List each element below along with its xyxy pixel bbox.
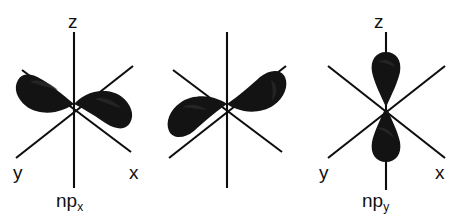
orbital-lobe-upper-left xyxy=(16,75,74,113)
axis-label-y: y xyxy=(13,163,23,182)
orbital-panel-pz: z y x npz xyxy=(306,0,459,224)
orbital-lobe-upper-right xyxy=(227,71,286,112)
axis-label-z: z xyxy=(68,12,78,31)
orbital-lobe-group xyxy=(372,52,401,162)
orbital-lobe-lower-right xyxy=(74,91,132,128)
orbital-lobe-lower xyxy=(372,107,401,162)
orbital-panel-px: z y x npx xyxy=(0,0,153,224)
p-orbital-figure: z y x npx z y x npy xyxy=(0,0,459,224)
orbital-name-base: np xyxy=(56,190,77,211)
orbital-name-subscript: x xyxy=(77,200,83,214)
orbital-name-label: npx xyxy=(56,191,83,213)
orbital-panel-py: z y x npy xyxy=(153,0,306,224)
orbital-lobe-lower-left xyxy=(168,96,227,137)
axis-label-x: x xyxy=(129,163,139,182)
